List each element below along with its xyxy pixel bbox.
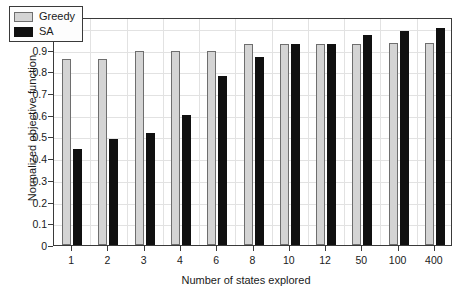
vertical-gridline (417, 19, 418, 245)
x-tick-label: 3 (124, 254, 164, 266)
x-tick-label: 6 (196, 254, 236, 266)
bar-sa-1 (73, 149, 82, 245)
x-tick-label: 100 (378, 254, 418, 266)
vertical-gridline (127, 19, 128, 245)
x-tick-mark (361, 246, 362, 251)
gridline (54, 30, 451, 31)
y-tick-label: 0.8 (0, 66, 47, 78)
x-tick-mark (325, 246, 326, 251)
vertical-gridline (272, 19, 273, 245)
x-tick-label: 12 (305, 254, 345, 266)
bar-greedy-100 (389, 43, 398, 245)
vertical-gridline (235, 19, 236, 245)
bar-sa-100 (400, 31, 409, 245)
bar-sa-8 (255, 57, 264, 245)
x-tick-mark (253, 246, 254, 251)
legend: Greedy SA (9, 6, 83, 42)
x-tick-mark (216, 246, 217, 251)
x-tick-mark (180, 246, 181, 251)
vertical-gridline (163, 19, 164, 245)
bar-sa-400 (436, 28, 445, 245)
y-tick-mark (48, 246, 53, 247)
plot-area (53, 18, 452, 246)
bar-sa-4 (182, 115, 191, 245)
bar-greedy-50 (352, 44, 361, 245)
vertical-gridline (344, 19, 345, 245)
legend-swatch-greedy-icon (14, 12, 33, 22)
legend-swatch-sa-icon (14, 27, 33, 37)
bar-greedy-4 (171, 51, 180, 245)
bar-sa-6 (218, 76, 227, 245)
vertical-gridline (199, 19, 200, 245)
y-tick-label: 0 (0, 240, 47, 252)
y-tick-label: 0.5 (0, 131, 47, 143)
x-axis-label: Number of states explored (40, 274, 452, 286)
legend-label-sa: SA (39, 26, 54, 37)
bar-greedy-400 (425, 43, 434, 245)
x-tick-mark (434, 246, 435, 251)
bar-greedy-6 (207, 51, 216, 245)
x-tick-label: 10 (269, 254, 309, 266)
bar-sa-12 (327, 44, 336, 245)
x-tick-label: 50 (341, 254, 381, 266)
x-tick-mark (71, 246, 72, 251)
bar-sa-2 (109, 139, 118, 245)
vertical-gridline (380, 19, 381, 245)
y-tick-label: 0.9 (0, 45, 47, 57)
x-tick-label: 8 (233, 254, 273, 266)
bar-greedy-1 (62, 59, 71, 245)
y-tick-label: 0.4 (0, 153, 47, 165)
y-tick-label: 0.1 (0, 218, 47, 230)
bar-sa-50 (363, 35, 372, 245)
bar-greedy-3 (135, 51, 144, 245)
x-tick-mark (289, 246, 290, 251)
x-tick-mark (107, 246, 108, 251)
bar-sa-10 (291, 44, 300, 245)
x-tick-mark (144, 246, 145, 251)
vertical-gridline (308, 19, 309, 245)
vertical-gridline (90, 19, 91, 245)
x-tick-label: 1 (51, 254, 91, 266)
x-tick-mark (398, 246, 399, 251)
bar-greedy-8 (244, 44, 253, 245)
bar-greedy-12 (316, 44, 325, 245)
legend-item-sa[interactable]: SA (14, 25, 75, 38)
y-tick-label: 0.3 (0, 175, 47, 187)
x-tick-label: 400 (414, 254, 454, 266)
bar-greedy-2 (98, 59, 107, 245)
bar-chart-figure: Normalized objective function Number of … (0, 0, 471, 295)
legend-label-greedy: Greedy (39, 11, 75, 22)
y-tick-label: 0.6 (0, 110, 47, 122)
bar-greedy-10 (280, 44, 289, 245)
y-tick-label: 0.2 (0, 197, 47, 209)
y-tick-label: 0.7 (0, 88, 47, 100)
legend-item-greedy[interactable]: Greedy (14, 10, 75, 23)
bar-sa-3 (146, 133, 155, 245)
x-tick-label: 4 (160, 254, 200, 266)
x-tick-label: 2 (87, 254, 127, 266)
